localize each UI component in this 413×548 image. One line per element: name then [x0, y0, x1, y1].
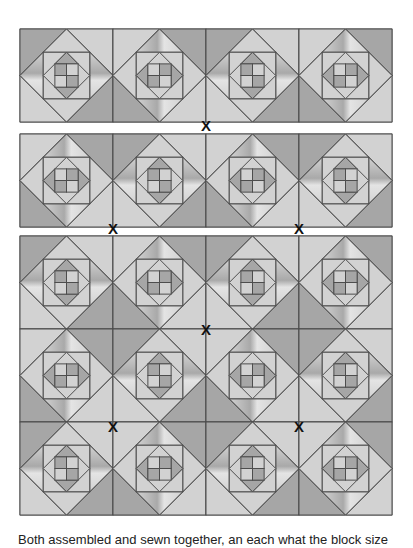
quilt-block-B [299, 422, 392, 515]
four-patch-cell [241, 169, 253, 181]
seam-marker-x: X [294, 418, 304, 435]
four-patch-cell [253, 457, 265, 469]
quilt-block-A [206, 29, 299, 122]
four-patch-cell [148, 181, 160, 193]
quilt-block-B [20, 134, 113, 227]
four-patch-cell [241, 64, 253, 76]
four-patch-cell [346, 169, 358, 181]
four-patch-cell [160, 181, 172, 193]
seam-marker-x: X [201, 117, 211, 134]
seam-marker-x: X [201, 321, 211, 338]
four-patch-cell [160, 169, 172, 181]
four-patch-cell [241, 376, 253, 388]
seam-marker-x: X [108, 418, 118, 435]
four-patch-cell [67, 271, 79, 283]
four-patch-cell [148, 469, 160, 481]
four-patch-cell [55, 271, 67, 283]
four-patch-cell [148, 76, 160, 88]
four-patch-cell [55, 64, 67, 76]
four-patch-cell [160, 457, 172, 469]
four-patch-cell [148, 271, 160, 283]
four-patch-cell [334, 376, 346, 388]
four-patch-cell [346, 457, 358, 469]
four-patch-cell [253, 364, 265, 376]
four-patch-cell [148, 169, 160, 181]
four-patch-cell [148, 64, 160, 76]
quilt-block-B [20, 329, 113, 422]
four-patch-cell [346, 376, 358, 388]
four-patch-cell [241, 364, 253, 376]
four-patch-cell [160, 364, 172, 376]
four-patch-cell [148, 283, 160, 295]
quilt-block-A [20, 29, 113, 122]
quilt-blocks [20, 29, 392, 515]
four-patch-cell [55, 364, 67, 376]
four-patch-cell [334, 64, 346, 76]
four-patch-cell [67, 457, 79, 469]
quilt-block-A [206, 422, 299, 515]
four-patch-cell [67, 376, 79, 388]
quilt-block-B [113, 422, 206, 515]
quilt-block-A [299, 134, 392, 227]
quilt-block-A [20, 422, 113, 515]
quilt-block-A [113, 329, 206, 422]
four-patch-cell [241, 76, 253, 88]
four-patch-cell [148, 364, 160, 376]
four-patch-cell [67, 169, 79, 181]
four-patch-cell [346, 181, 358, 193]
quilt-block-B [206, 134, 299, 227]
four-patch-cell [253, 64, 265, 76]
four-patch-cell [55, 376, 67, 388]
four-patch-cell [55, 457, 67, 469]
four-patch-cell [241, 181, 253, 193]
four-patch-cell [67, 283, 79, 295]
four-patch-cell [253, 469, 265, 481]
four-patch-cell [334, 271, 346, 283]
four-patch-cell [253, 283, 265, 295]
four-patch-cell [334, 469, 346, 481]
four-patch-cell [148, 457, 160, 469]
quilt-block-B [113, 236, 206, 329]
figure-caption: Both assembled and sewn together, an eac… [18, 532, 388, 548]
four-patch-cell [334, 181, 346, 193]
four-patch-cell [346, 364, 358, 376]
four-patch-cell [346, 271, 358, 283]
four-patch-cell [346, 64, 358, 76]
quilt-block-A [20, 236, 113, 329]
four-patch-cell [160, 64, 172, 76]
four-patch-cell [346, 283, 358, 295]
seam-marker-x: X [294, 220, 304, 237]
four-patch-cell [253, 271, 265, 283]
four-patch-cell [241, 457, 253, 469]
four-patch-cell [334, 169, 346, 181]
quilt-block-A [299, 329, 392, 422]
four-patch-cell [160, 283, 172, 295]
seam-marker-x: X [108, 220, 118, 237]
four-patch-cell [55, 469, 67, 481]
four-patch-cell [334, 457, 346, 469]
four-patch-cell [253, 76, 265, 88]
four-patch-cell [55, 283, 67, 295]
four-patch-cell [241, 271, 253, 283]
four-patch-cell [346, 76, 358, 88]
four-patch-cell [55, 181, 67, 193]
quilt-block-B [113, 29, 206, 122]
four-patch-cell [253, 181, 265, 193]
four-patch-cell [253, 376, 265, 388]
four-patch-cell [55, 76, 67, 88]
four-patch-cell [334, 364, 346, 376]
four-patch-cell [334, 283, 346, 295]
four-patch-cell [241, 283, 253, 295]
four-patch-cell [160, 469, 172, 481]
quilt-block-A [206, 236, 299, 329]
quilt-block-B [299, 236, 392, 329]
four-patch-cell [346, 469, 358, 481]
four-patch-cell [55, 169, 67, 181]
four-patch-cell [67, 76, 79, 88]
quilt-block-A [113, 134, 206, 227]
four-patch-cell [160, 376, 172, 388]
four-patch-cell [334, 76, 346, 88]
four-patch-cell [160, 76, 172, 88]
four-patch-cell [253, 169, 265, 181]
